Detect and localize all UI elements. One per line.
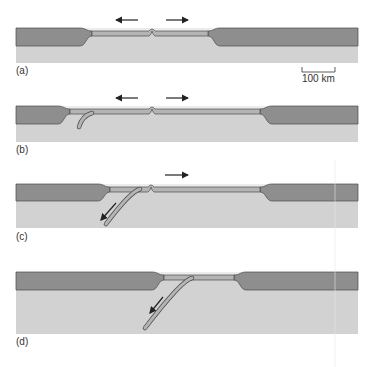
scale-bar: 100 km (302, 67, 335, 84)
plate-tectonics-diagram: (a)(b)(c)(d) 100 km (0, 0, 378, 367)
scale-bar-label: 100 km (302, 73, 335, 84)
panel-label: (a) (16, 65, 28, 76)
continental-crust-right (260, 106, 358, 124)
panel-label: (b) (16, 144, 28, 155)
continental-crust-right (260, 184, 358, 201)
continental-crust-right (208, 28, 358, 46)
continental-crust-left (16, 272, 164, 290)
panel-d: (d) (16, 272, 358, 347)
panels: (a)(b)(c)(d) (16, 20, 358, 347)
continental-crust-left (16, 184, 110, 201)
continental-crust-left (16, 106, 70, 124)
panel-c: (c) (16, 175, 358, 242)
panel-label: (d) (16, 336, 28, 347)
continental-crust-right (234, 272, 358, 290)
panel-a: (a) (16, 20, 358, 76)
continental-crust-left (16, 28, 92, 46)
panel-label: (c) (16, 231, 28, 242)
panel-b: (b) (16, 98, 358, 155)
oceanic-plate (164, 275, 234, 280)
